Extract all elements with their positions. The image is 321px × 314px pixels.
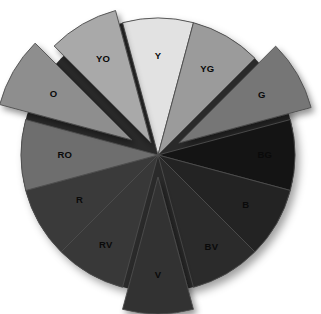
wedge-label-y: Y [155,50,162,61]
wedge-label-bv: BV [205,241,219,252]
wedge-label-yo: YO [96,53,110,64]
wedge-label-rv: RV [99,239,113,250]
wedge-label-ro: RO [57,149,72,160]
wedge-label-g: G [258,89,266,100]
wedge-label-o: O [50,88,58,99]
wedge-label-b: B [242,199,249,210]
wedge-label-yg: YG [200,63,214,74]
wedge-label-v: V [155,269,162,280]
color-wheel-figure: YYGGBGBBVVRVRROOYO [0,0,321,314]
wedge-label-bg: BG [257,149,272,160]
color-wheel-svg: YYGGBGBBVVRVRROOYO [0,0,321,314]
wedge-label-r: R [76,194,83,205]
